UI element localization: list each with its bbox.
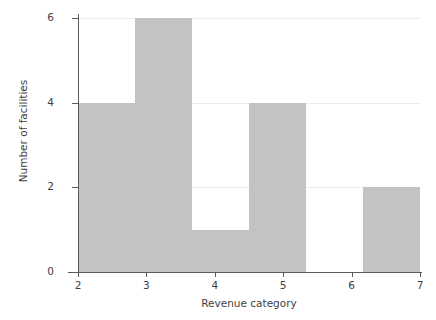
histogram-bar bbox=[363, 187, 420, 272]
y-tick-mark-6 bbox=[72, 18, 78, 19]
histogram-bar bbox=[249, 103, 306, 272]
histogram-bar bbox=[192, 230, 249, 272]
y-axis-line bbox=[78, 14, 79, 272]
histogram-figure: Revenue category Number of facilities 23… bbox=[0, 0, 436, 320]
x-tick-mark-4 bbox=[215, 272, 216, 277]
x-tick-label-2: 2 bbox=[58, 279, 98, 291]
histogram-bar bbox=[78, 103, 135, 272]
y-tick-label-4: 4 bbox=[0, 96, 62, 108]
x-tick-mark-5 bbox=[283, 272, 284, 277]
plot-area bbox=[78, 18, 420, 272]
y-tick-label-0: 0 bbox=[0, 265, 62, 277]
x-tick-label-7: 7 bbox=[400, 279, 436, 291]
y-tick-mark-2 bbox=[72, 187, 78, 188]
y-tick-mark-4 bbox=[72, 103, 78, 104]
x-tick-mark-3 bbox=[146, 272, 147, 277]
y-tick-label-6: 6 bbox=[0, 11, 62, 23]
x-tick-label-6: 6 bbox=[332, 279, 372, 291]
histogram-bar bbox=[135, 18, 192, 272]
x-tick-mark-2 bbox=[78, 272, 79, 277]
y-axis-title: Number of facilities bbox=[17, 31, 29, 231]
y-tick-mark-0 bbox=[72, 272, 78, 273]
x-tick-mark-7 bbox=[420, 272, 421, 277]
y-tick-label-2: 2 bbox=[0, 180, 62, 192]
x-axis-title: Revenue category bbox=[78, 297, 420, 309]
x-tick-mark-6 bbox=[352, 272, 353, 277]
x-axis-line bbox=[68, 272, 422, 273]
x-tick-label-4: 4 bbox=[195, 279, 235, 291]
x-tick-label-5: 5 bbox=[263, 279, 303, 291]
gridline-y-6 bbox=[78, 18, 420, 19]
x-tick-label-3: 3 bbox=[126, 279, 166, 291]
